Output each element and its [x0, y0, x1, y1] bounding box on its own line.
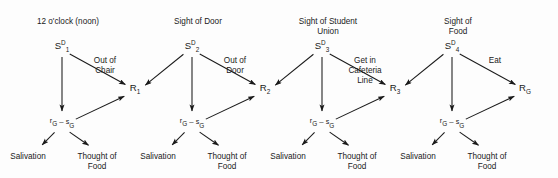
unit-2-mediator-node: rG – sG	[180, 116, 204, 128]
unit-1-mediator-to-response-arrow	[76, 96, 124, 119]
unit-4-stimulus-to-response-arrow	[460, 54, 516, 85]
unit-1-outcome-thought-of-food: Thought ofFood	[77, 152, 117, 171]
chain-diagram-canvas: 12 o'clock (noon)Out ofChairSD1R1rG – sG…	[0, 0, 558, 178]
unit-4-mediator-to-thought-arrow	[460, 132, 479, 145]
unit-1-cue-label: 12 o'clock (noon)	[37, 17, 99, 26]
unit-3-mediator-to-salivation-arrow	[302, 132, 314, 144]
unit-1-mediator-to-salivation-arrow	[42, 132, 54, 144]
unit-1-stimulus-node: SD1	[55, 39, 70, 53]
unit-4-outcome-thought-of-food: Thought ofFood	[467, 152, 507, 171]
unit-1-act-label: Out ofChair	[94, 56, 117, 75]
unit-2-mediator-to-thought-arrow	[200, 132, 219, 145]
unit-3-outcome-thought-of-food: Thought ofFood	[337, 152, 377, 171]
unit-2-mediator-to-salivation-arrow	[172, 132, 184, 144]
behavior-chain-diagram: 12 o'clock (noon)Out ofChairSD1R1rG – sG…	[0, 0, 558, 178]
unit-4-mediator-node: rG – sG	[440, 116, 464, 128]
unit-2-outcome-thought-of-food: Thought ofFood	[207, 152, 247, 171]
unit-2-response-node: R2	[260, 82, 271, 95]
unit-3-next-stimulus-to-response-arrow	[405, 54, 443, 85]
unit-2-outcome-salivation: Salivation	[140, 152, 176, 161]
unit-1-mediator-to-thought-arrow	[70, 132, 89, 145]
unit-4-act-label: Eat	[489, 56, 502, 65]
unit-4-outcome-salivation: Salivation	[400, 152, 436, 161]
unit-3-cue-label: Sight of StudentUnion	[299, 17, 358, 36]
unit-4-cue-label: Sight ofFood	[444, 17, 472, 36]
unit-3-act-label: Get inCafeteriaLine	[348, 56, 382, 85]
unit-1-mediator-node: rG – sG	[50, 116, 74, 128]
unit-4-stimulus-node: SD4	[445, 39, 460, 53]
unit-3-stimulus-node: SD3	[315, 39, 330, 53]
unit-3-response-node: R3	[390, 82, 401, 95]
unit-3-mediator-to-response-arrow	[336, 96, 384, 119]
unit-3-mediator-node: rG – sG	[310, 116, 334, 128]
unit-4-mediator-to-response-arrow	[466, 96, 514, 119]
unit-3-outcome-salivation: Salivation	[270, 152, 306, 161]
labels-layer: 12 o'clock (noon)Out ofChairSD1R1rG – sG…	[10, 17, 531, 171]
unit-4-response-node: RG	[519, 82, 531, 95]
unit-1-next-stimulus-to-response-arrow	[145, 54, 183, 85]
unit-2-cue-label: Sight of Door	[174, 17, 222, 26]
unit-2-stimulus-node: SD2	[185, 39, 200, 53]
unit-2-mediator-to-response-arrow	[206, 96, 254, 119]
unit-3-mediator-to-thought-arrow	[330, 132, 349, 145]
unit-4-mediator-to-salivation-arrow	[432, 132, 444, 144]
unit-2-act-label: Out ofDoor	[224, 56, 247, 75]
unit-1-response-node: R1	[130, 82, 141, 95]
unit-1-outcome-salivation: Salivation	[10, 152, 46, 161]
unit-2-next-stimulus-to-response-arrow	[275, 54, 313, 85]
